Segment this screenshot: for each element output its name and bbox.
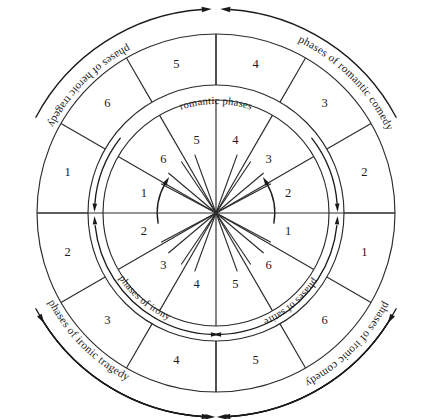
arrowhead-gap-lower-right (335, 216, 340, 225)
inner-sector-number: 4 (194, 277, 201, 291)
arrowhead-bottom-left (217, 414, 227, 419)
outer-ring-divider (127, 58, 153, 102)
inner-sector-number: 2 (141, 224, 147, 238)
inner-sector-number: 3 (160, 258, 166, 272)
arrowhead-gap-upper-left (93, 204, 98, 212)
center-arc-left (157, 184, 165, 224)
wheel-diagram: 165432165432 165432165432 phases of roma… (0, 0, 435, 419)
outer-sector-number: 1 (361, 245, 367, 259)
outer-sector-number: 6 (104, 96, 110, 110)
outer-ring-divider (127, 324, 153, 368)
gap-arc-lower-right (277, 226, 337, 319)
inner-sector-number: 5 (232, 277, 238, 291)
center-arc-right (267, 184, 275, 224)
outer-sector-number: 5 (253, 353, 259, 367)
center-ray (181, 213, 216, 265)
outer-ring-divider (61, 124, 105, 150)
outer-ring-divider (327, 277, 371, 303)
gap-arc-upper-left (95, 138, 120, 204)
outer-sector-number: 3 (104, 313, 110, 327)
arrowhead-top-left (202, 7, 212, 12)
center-ray (181, 161, 216, 213)
inner-ring-divider (118, 157, 216, 214)
outer-sector-number: 1 (65, 165, 71, 179)
arrowhead-center-left (163, 177, 170, 186)
label-phases-of-ironic-comedy: phases of ironic comedy (303, 300, 393, 390)
outer-ring-divider (61, 277, 105, 303)
arrowhead-gap-upper-right (335, 204, 340, 212)
inner-ring-divider (118, 213, 216, 270)
inner-sector-number: 4 (232, 133, 239, 147)
inner-sector-number: 6 (266, 258, 272, 272)
inner-sector-number: 5 (194, 133, 200, 147)
inner-sector-number: 1 (285, 224, 291, 238)
gap-arc-upper-right (312, 138, 337, 204)
label-phases-of-satire: phases of satire (262, 277, 321, 329)
outer-ring-divider (280, 58, 306, 102)
outer-ring-divider (280, 324, 306, 368)
label-phases-of-irony: phases of irony (117, 273, 173, 322)
center-ray (216, 213, 251, 265)
inner-sector-number: 2 (285, 186, 291, 200)
outer-sector-number: 5 (173, 57, 179, 71)
arrowhead-bottom-right (205, 414, 215, 419)
arrowhead-top-right (220, 7, 230, 12)
label-phases-of-romantic-comedy: phases of romantic comedy (297, 33, 397, 133)
inner-sector-number: 1 (141, 186, 147, 200)
arrowhead-gap-lower-left (93, 216, 98, 225)
inner-sector-number: 6 (160, 152, 166, 166)
outer-sector-number: 4 (173, 353, 180, 367)
outer-sector-number: 2 (361, 165, 367, 179)
arrowhead-gap-bottom-right (213, 332, 221, 337)
inner-sector-number: 3 (266, 152, 272, 166)
wheel-svg: 165432165432 165432165432 phases of roma… (0, 0, 435, 419)
center-ray (216, 161, 251, 213)
outer-sector-number: 2 (65, 245, 71, 259)
arrowhead-center-right (263, 177, 270, 186)
outer-ring-divider (327, 124, 371, 150)
outer-sector-number: 4 (253, 57, 260, 71)
outer-sector-number: 6 (321, 313, 327, 327)
outer-sector-number: 3 (321, 96, 327, 110)
